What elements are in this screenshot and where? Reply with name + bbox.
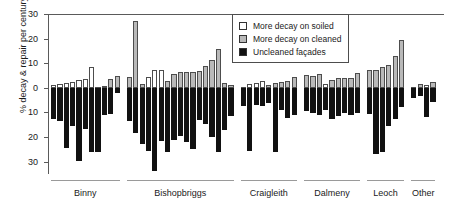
- bar-negative: [190, 88, 195, 149]
- bar-negative: [393, 88, 398, 120]
- bar-negative: [373, 88, 378, 154]
- bar-negative: [342, 88, 347, 114]
- y-tick-label: 10: [28, 107, 38, 117]
- bar-negative: [336, 88, 341, 117]
- y-tick-label: 30: [28, 9, 38, 19]
- group-name-label: Other: [411, 188, 435, 198]
- bar-positive: [386, 65, 391, 88]
- group-name-label: Binny: [51, 188, 120, 198]
- group-rule: [304, 180, 360, 181]
- bar-negative: [222, 88, 227, 130]
- bar-negative: [241, 88, 246, 106]
- bar-positive: [89, 67, 94, 88]
- bar-negative: [399, 88, 404, 107]
- x-axis-group: Craigleith: [241, 180, 297, 198]
- bar-negative: [285, 88, 290, 119]
- legend-label-cleaned: More decay on cleaned: [253, 34, 341, 44]
- legend-label-soiled: More decay on soiled: [253, 21, 334, 31]
- legend-swatch-soiled-icon: [239, 22, 247, 30]
- bar-negative: [140, 88, 145, 145]
- y-tick: 20: [44, 137, 48, 138]
- bar-positive: [171, 74, 176, 88]
- x-axis-group: Binny: [51, 180, 120, 198]
- y-tick-label: 30: [28, 157, 38, 167]
- bar-positive: [83, 79, 88, 88]
- bar-negative: [95, 88, 100, 152]
- bar-negative: [184, 88, 189, 142]
- bar-negative: [51, 88, 56, 119]
- bar-positive: [152, 70, 157, 88]
- bar-positive: [260, 81, 265, 88]
- bar-negative: [292, 88, 297, 116]
- group-rule: [241, 180, 297, 181]
- bar-positive: [203, 66, 208, 88]
- y-tick: 0: [44, 88, 48, 89]
- y-tick-label: 20: [28, 132, 38, 142]
- bar-negative: [348, 88, 353, 115]
- bar-positive: [393, 56, 398, 88]
- bar-negative: [424, 88, 429, 117]
- bar-positive: [348, 78, 353, 88]
- bar-positive: [108, 79, 113, 87]
- bar-positive: [190, 72, 195, 88]
- bar-negative: [171, 88, 176, 140]
- bar-positive: [292, 77, 297, 88]
- x-axis-group-labels: BinnyBishopbriggsCraigleithDalmenyLeochO…: [49, 180, 445, 208]
- bar-negative: [83, 88, 88, 129]
- bar-negative: [133, 88, 138, 133]
- bar-negative: [115, 88, 120, 93]
- legend-swatch-uncleaned-icon: [239, 48, 247, 56]
- group-rule: [411, 180, 435, 181]
- group-rule: [51, 180, 120, 181]
- bar-positive: [355, 73, 360, 88]
- bar-positive: [209, 60, 214, 88]
- bar-negative: [178, 88, 183, 136]
- group-name-label: Craigleith: [241, 188, 297, 198]
- bar-negative: [317, 88, 322, 115]
- bar-negative: [273, 88, 278, 152]
- bar-negative: [76, 88, 81, 161]
- y-tick: 30: [44, 162, 48, 163]
- bar-negative: [430, 88, 435, 102]
- bar-positive: [310, 76, 315, 88]
- legend-swatch-cleaned-icon: [239, 35, 247, 43]
- bar-negative: [266, 88, 271, 103]
- bar-negative: [247, 88, 252, 152]
- y-tick-label: 10: [28, 58, 38, 68]
- bar-negative: [197, 88, 202, 120]
- x-axis-group: Other: [411, 180, 435, 198]
- decay-repair-bar-chart: % decay & repair per century 30201001020…: [0, 0, 451, 209]
- bar-positive: [178, 72, 183, 88]
- bar-negative: [70, 88, 75, 126]
- bar-negative: [279, 88, 284, 111]
- bar-negative: [159, 88, 164, 141]
- bar-positive: [216, 49, 221, 87]
- bar-negative: [108, 88, 113, 114]
- bar-positive: [115, 76, 120, 88]
- bar-negative: [127, 88, 132, 121]
- bar-positive: [133, 21, 138, 87]
- group-name-label: Bishopbriggs: [127, 188, 234, 198]
- bar-positive: [197, 71, 202, 88]
- bar-positive: [304, 75, 309, 88]
- bar-negative: [64, 88, 69, 149]
- bar-negative: [386, 88, 391, 126]
- bar-negative: [203, 88, 208, 124]
- bar-negative: [209, 88, 214, 137]
- bar-negative: [380, 88, 385, 152]
- bar-negative: [216, 88, 221, 152]
- bar-negative: [228, 88, 233, 117]
- bar-negative: [355, 88, 360, 114]
- y-tick: 20: [44, 39, 48, 40]
- group-rule: [127, 180, 234, 181]
- y-tick: 10: [44, 63, 48, 64]
- bar-positive: [146, 77, 151, 88]
- bar-positive: [373, 70, 378, 88]
- bar-negative: [102, 88, 107, 116]
- bar-negative: [411, 88, 416, 98]
- bar-positive: [399, 40, 404, 88]
- group-rule: [367, 180, 404, 181]
- bar-positive: [317, 74, 322, 88]
- x-axis-group: Dalmeny: [304, 180, 360, 198]
- bar-positive: [159, 70, 164, 88]
